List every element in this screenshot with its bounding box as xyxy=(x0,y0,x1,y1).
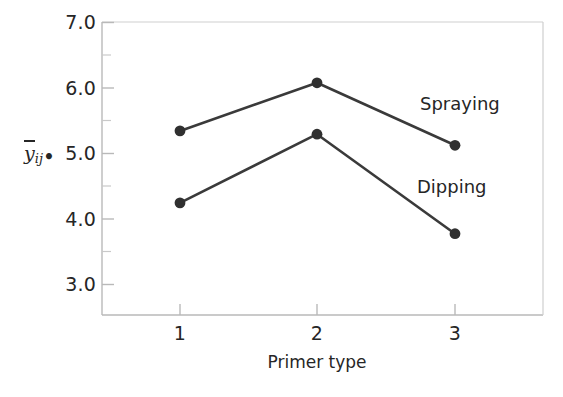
y-tick-label-7: 7.0 xyxy=(50,11,96,33)
x-tick-label-1: 1 xyxy=(150,322,210,344)
x-axis-title: Primer type xyxy=(222,352,412,372)
x-tick-label-2: 2 xyxy=(287,322,347,344)
data-point-spraying-1 xyxy=(175,125,186,136)
y-axis-label: yij• xyxy=(24,142,54,167)
data-point-spraying-3 xyxy=(450,140,461,151)
y-major-ticks xyxy=(102,23,114,285)
series-dipping-line xyxy=(180,134,455,234)
y-tick-label-3: 3.0 xyxy=(50,273,96,295)
overbar-icon xyxy=(24,140,35,142)
y-tick-label-4: 4.0 xyxy=(50,208,96,230)
data-point-spraying-2 xyxy=(312,77,323,88)
data-point-dipping-1 xyxy=(175,198,186,209)
axes-frame xyxy=(102,22,543,315)
y-tick-label-6: 6.0 xyxy=(50,77,96,99)
series-label-spraying: Spraying xyxy=(420,93,500,114)
series-label-dipping: Dipping xyxy=(417,176,487,197)
y-axis-label-dot: • xyxy=(43,147,54,167)
y-axis-label-variable: y xyxy=(24,142,35,164)
series-spraying xyxy=(175,77,461,150)
x-ticks xyxy=(180,304,455,315)
x-tick-label-3: 3 xyxy=(425,322,485,344)
data-point-dipping-3 xyxy=(450,228,461,239)
y-tick-label-5: 5.0 xyxy=(50,142,96,164)
data-point-dipping-2 xyxy=(312,129,323,140)
chart-figure: 7.0 6.0 5.0 4.0 3.0 yij• 1 2 3 Primer ty… xyxy=(0,0,563,397)
y-axis-label-subscript: ij xyxy=(35,151,43,166)
y-axis-label-base: y xyxy=(24,142,35,164)
